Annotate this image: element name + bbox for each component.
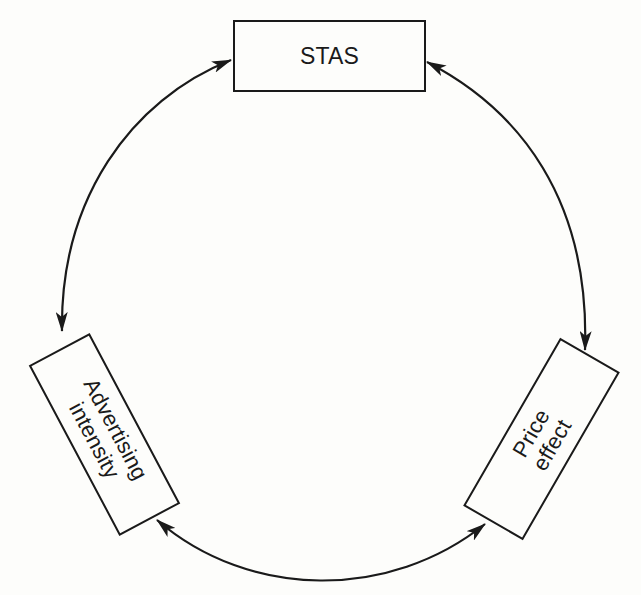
stas-cycle-diagram: STAS Advertising intensity Price effect <box>0 0 641 595</box>
edge-advertising-price <box>157 520 485 581</box>
edge-stas-price <box>427 62 585 350</box>
node-stas: STAS <box>233 20 426 92</box>
edge-stas-advertising <box>62 60 231 331</box>
node-stas-label: STAS <box>300 44 359 68</box>
